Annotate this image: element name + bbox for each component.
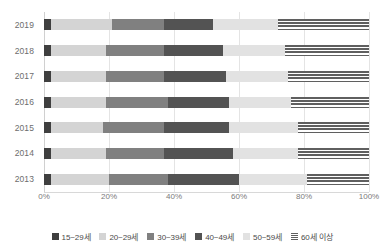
y-axis-label-2016: 2016 bbox=[15, 97, 34, 107]
x-axis-tick-60: 60% bbox=[231, 192, 247, 201]
bar-segment bbox=[51, 122, 103, 133]
bar-row bbox=[44, 148, 369, 159]
bar-segment bbox=[298, 148, 370, 159]
bar-segment bbox=[164, 71, 226, 82]
y-axis-label-2017: 2017 bbox=[15, 71, 34, 81]
legend-label: 20~29세 bbox=[109, 231, 138, 242]
legend-swatch-icon bbox=[99, 233, 106, 240]
bar-segment bbox=[51, 97, 106, 108]
bar-segment bbox=[278, 19, 369, 30]
x-axis-labels: 0%20%40%60%80%100% bbox=[44, 192, 369, 206]
bar-segment bbox=[164, 122, 229, 133]
bar-segment bbox=[106, 45, 165, 56]
bar-segment bbox=[106, 71, 165, 82]
legend-swatch-icon bbox=[195, 233, 202, 240]
legend-label: 50~59세 bbox=[253, 231, 282, 242]
bar-row bbox=[44, 122, 369, 133]
x-axis-tick-100: 100% bbox=[359, 192, 379, 201]
bar-segment bbox=[51, 45, 106, 56]
bar-row bbox=[44, 71, 369, 82]
y-axis-label-2013: 2013 bbox=[15, 174, 34, 184]
bar-segment bbox=[298, 122, 370, 133]
bar-segment bbox=[51, 148, 106, 159]
bar-segment bbox=[213, 19, 278, 30]
y-axis-labels: 2019201820172016201520142013 bbox=[0, 12, 40, 192]
legend-label: 40~49세 bbox=[205, 231, 234, 242]
legend-item[interactable]: 40~49세 bbox=[195, 231, 234, 242]
bar-segment bbox=[168, 174, 240, 185]
bar-segment bbox=[285, 45, 370, 56]
legend-item[interactable]: 30~39세 bbox=[147, 231, 186, 242]
bar-segment bbox=[288, 71, 369, 82]
bar-segment bbox=[239, 174, 307, 185]
bar-row bbox=[44, 45, 369, 56]
legend-item[interactable]: 50~59세 bbox=[243, 231, 282, 242]
bar-segment bbox=[223, 45, 285, 56]
bar-row bbox=[44, 19, 369, 30]
legend-swatch-icon bbox=[147, 233, 154, 240]
bar-segment bbox=[229, 97, 291, 108]
gridline-100 bbox=[369, 12, 370, 192]
x-axis-tick-40: 40% bbox=[166, 192, 182, 201]
bar-segment bbox=[226, 71, 288, 82]
y-axis-label-2014: 2014 bbox=[15, 148, 34, 158]
bar-segment bbox=[109, 174, 168, 185]
bar-segment bbox=[307, 174, 369, 185]
bar-segment bbox=[291, 97, 369, 108]
bar-segment bbox=[164, 19, 213, 30]
bar-segment bbox=[103, 122, 165, 133]
legend-swatch-icon bbox=[291, 233, 298, 240]
legend-item[interactable]: 20~29세 bbox=[99, 231, 138, 242]
legend-item[interactable]: 15~29세 bbox=[52, 231, 91, 242]
bar-segment bbox=[106, 148, 165, 159]
legend-label: 15~29세 bbox=[62, 231, 91, 242]
bar-segment bbox=[229, 122, 297, 133]
x-axis-tick-80: 80% bbox=[296, 192, 312, 201]
legend-label: 30~39세 bbox=[157, 231, 186, 242]
legend-swatch-icon bbox=[52, 233, 59, 240]
plot-area bbox=[44, 12, 369, 192]
y-axis-label-2015: 2015 bbox=[15, 123, 34, 133]
legend-item[interactable]: 60세 이상 bbox=[291, 231, 333, 242]
y-axis-label-2019: 2019 bbox=[15, 20, 34, 30]
y-axis-label-2018: 2018 bbox=[15, 46, 34, 56]
bar-segment bbox=[164, 45, 223, 56]
stacked-bar-chart: 2019201820172016201520142013 0%20%40%60%… bbox=[0, 0, 384, 252]
bar-row bbox=[44, 97, 369, 108]
bar-segment bbox=[112, 19, 164, 30]
bar-row bbox=[44, 174, 369, 185]
chart-legend: 15~29세20~29세30~39세40~49세50~59세60세 이상 bbox=[0, 228, 384, 244]
bar-segment bbox=[51, 19, 113, 30]
bar-segment bbox=[106, 97, 168, 108]
legend-label: 60세 이상 bbox=[301, 231, 333, 242]
legend-swatch-icon bbox=[243, 233, 250, 240]
bar-segment bbox=[168, 97, 230, 108]
x-axis-tick-0: 0% bbox=[38, 192, 50, 201]
x-axis-tick-20: 20% bbox=[101, 192, 117, 201]
bar-segment bbox=[233, 148, 298, 159]
bar-segment bbox=[164, 148, 232, 159]
bar-segment bbox=[51, 71, 106, 82]
bar-segment bbox=[51, 174, 110, 185]
